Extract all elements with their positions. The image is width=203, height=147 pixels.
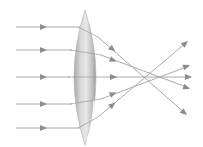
lens-ray-diagram: [0, 0, 203, 147]
incoming-rays: [16, 27, 80, 128]
convex-lens-diagram: [0, 0, 203, 147]
incoming-arrowheads: [40, 24, 47, 131]
outgoing-end-arrowheads: [180, 39, 192, 118]
